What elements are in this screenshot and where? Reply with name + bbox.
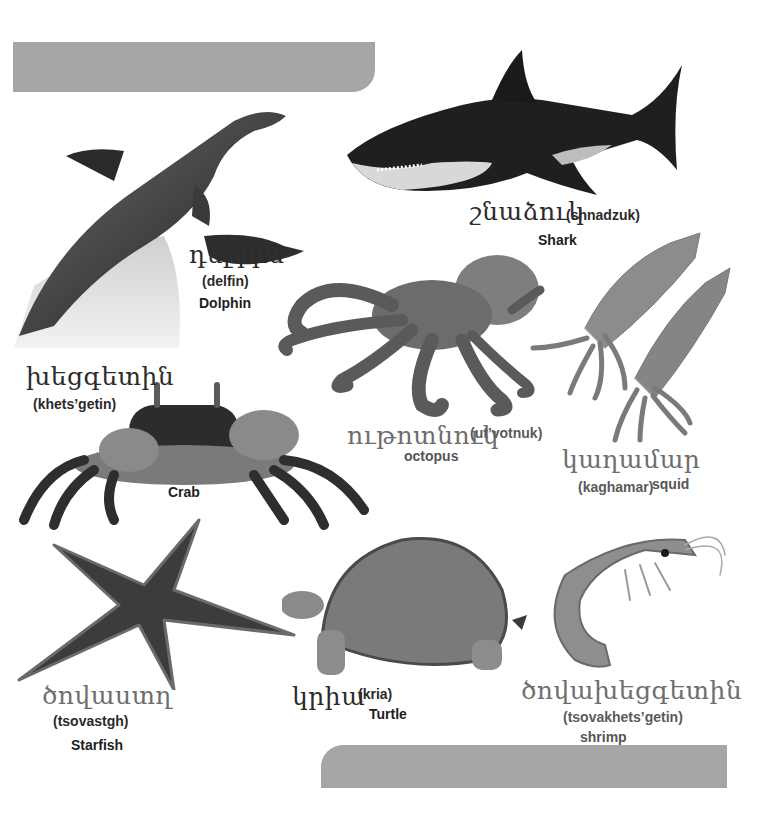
shrimp-image	[535, 515, 730, 675]
turtle-english: Turtle	[369, 707, 407, 721]
starfish-armenian: ծովաստղ	[42, 683, 172, 708]
shrimp-english: shrimp	[580, 730, 627, 744]
starfish-transliteration: (tsovastgh)	[53, 714, 128, 728]
squid-english: squid	[652, 477, 689, 491]
crab-english: Crab	[168, 485, 200, 499]
crab-transliteration: (khets’getin)	[33, 397, 116, 411]
turtle-image	[282, 530, 532, 680]
shrimp-armenian: ծովախեցգետին	[521, 678, 742, 703]
top-banner	[13, 42, 375, 92]
bottom-banner	[321, 745, 727, 788]
squid-armenian: կաղամար	[562, 447, 700, 472]
shark-transliteration: (shnadzuk)	[566, 208, 640, 222]
shrimp-transliteration: (tsovakhets’getin)	[563, 710, 683, 724]
starfish-english: Starfish	[71, 738, 123, 752]
octopus-english: octopus	[404, 449, 458, 463]
dolphin-english: Dolphin	[199, 296, 251, 310]
squid-image	[525, 228, 735, 443]
squid-transliteration: (kaghamar)	[578, 480, 653, 494]
starfish-image	[14, 515, 299, 690]
crab-armenian: խեցգետին	[26, 364, 174, 389]
turtle-transliteration: (kria)	[358, 687, 392, 701]
dolphin-armenian: դելֆին	[189, 242, 285, 267]
dolphin-image	[14, 96, 309, 348]
dolphin-transliteration: (delfin)	[202, 274, 249, 288]
shark-image	[342, 45, 692, 205]
turtle-armenian: կրիա	[292, 684, 365, 709]
